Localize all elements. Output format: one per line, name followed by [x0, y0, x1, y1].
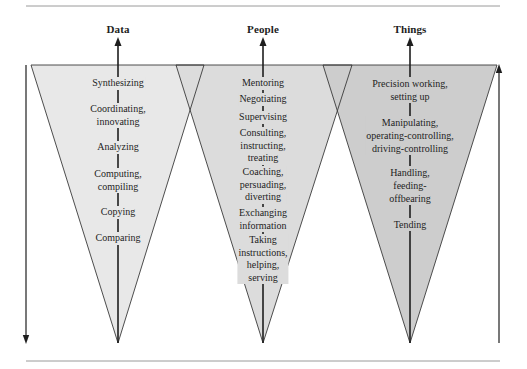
- item-line: Handling,: [389, 166, 430, 179]
- data-item-copying: Copying: [100, 206, 136, 219]
- things-item-manipulating: Manipulating, operating-controlling, dri…: [365, 116, 454, 155]
- item-line: Consulting,: [240, 127, 286, 140]
- item-line: Tending: [394, 218, 427, 231]
- item-line: Taking: [238, 234, 287, 247]
- column-title-data: Data: [106, 23, 129, 35]
- item-line: Comparing: [96, 232, 141, 245]
- item-line: Negotiating: [239, 93, 286, 106]
- things-item-handling: Handling, feeding- offbearing: [388, 166, 431, 205]
- item-line: Mentoring: [242, 77, 284, 90]
- people-item-supervising: Supervising: [238, 111, 288, 124]
- item-line: treating: [240, 152, 286, 165]
- item-line: instructing,: [240, 140, 286, 153]
- item-line: diverting: [240, 191, 286, 204]
- people-triangle: [176, 65, 352, 343]
- item-line: setting up: [372, 90, 448, 103]
- things-arrow-up-icon: [407, 37, 414, 46]
- data-item-coordinating: Coordinating, innovating: [89, 103, 146, 128]
- item-line: driving-controlling: [366, 142, 453, 155]
- data-item-synthesizing: Synthesizing: [91, 77, 145, 90]
- item-line: serving: [238, 272, 287, 285]
- item-line: persuading,: [240, 179, 286, 192]
- item-line: instructions,: [238, 247, 287, 260]
- item-line: compiling: [94, 181, 142, 194]
- item-line: feeding-: [389, 179, 430, 192]
- item-line: Copying: [101, 206, 135, 219]
- column-title-people: People: [247, 23, 279, 35]
- worker-functions-diagram: Data People Things Synthesizing Coordina…: [0, 0, 527, 369]
- people-arrow-up-icon: [260, 37, 267, 46]
- people-item-coaching: Coaching, persuading, diverting: [239, 166, 287, 204]
- item-line: Coordinating,: [90, 103, 145, 116]
- item-line: Supervising: [239, 111, 287, 124]
- item-line: operating-controlling,: [366, 129, 453, 142]
- things-item-tending: Tending: [393, 218, 428, 231]
- item-line: Manipulating,: [366, 116, 453, 129]
- people-item-exchanging-information: Exchanging information: [238, 207, 288, 232]
- people-item-mentoring: Mentoring: [241, 77, 285, 90]
- column-title-things: Things: [393, 23, 426, 35]
- item-line: Analyzing: [97, 141, 139, 154]
- left-arrow-down-icon: [23, 335, 29, 344]
- people-item-consulting: Consulting, instructing, treating: [239, 127, 287, 165]
- things-item-precision-working: Precision working, setting up: [371, 77, 449, 103]
- item-line: Precision working,: [372, 77, 448, 90]
- people-item-taking-instructions: Taking instructions, helping, serving: [237, 234, 288, 284]
- item-line: offbearing: [389, 192, 430, 205]
- data-item-computing: Computing, compiling: [93, 168, 143, 193]
- item-line: information: [239, 220, 287, 233]
- data-item-comparing: Comparing: [95, 232, 142, 245]
- item-line: Exchanging: [239, 207, 287, 220]
- item-line: Computing,: [94, 168, 142, 181]
- item-line: Synthesizing: [92, 77, 144, 90]
- data-arrow-up-icon: [115, 37, 122, 46]
- people-item-negotiating: Negotiating: [238, 93, 287, 106]
- item-line: Coaching,: [240, 166, 286, 179]
- item-line: helping,: [238, 259, 287, 272]
- data-item-analyzing: Analyzing: [96, 141, 140, 154]
- item-line: innovating: [90, 116, 145, 129]
